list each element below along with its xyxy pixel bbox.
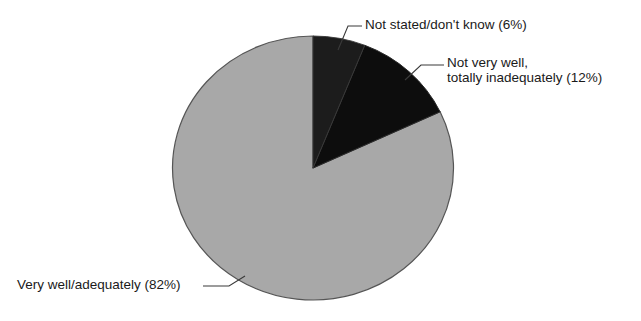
pie-label-not-stated-text: Not stated/don't know (6%) [365,17,527,32]
pie-label-not-stated: Not stated/don't know (6%) [365,17,527,32]
pie-label-not-very-well-line2: totally inadequately (12%) [447,70,602,85]
pie-label-very-well-text: Very well/adequately (82%) [17,277,181,292]
pie-chart-graphic [0,0,641,321]
pie-label-not-very-well: Not very well, totally inadequately (12%… [447,55,602,85]
pie-label-not-very-well-line1: Not very well, [447,55,602,70]
pie-chart-container: Not stated/don't know (6%) Not very well… [0,0,641,321]
pie-label-very-well: Very well/adequately (82%) [17,277,181,292]
